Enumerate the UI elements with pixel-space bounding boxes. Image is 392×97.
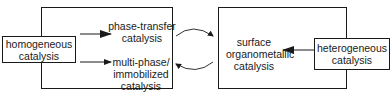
curved-arrow-left — [176, 62, 213, 70]
curved-arrow-right — [176, 29, 213, 36]
multi-phase-label: multi-phase/ immobilized catalysis — [110, 56, 172, 92]
phase-transfer-label: phase-transfer catalysis — [108, 20, 176, 44]
homogeneous-label: homogeneous catalysis — [2, 38, 76, 62]
surface-organometallic-label: surface organometallic catalysis — [226, 36, 282, 72]
heterogeneous-label: heterogeneous catalysis — [315, 42, 389, 66]
